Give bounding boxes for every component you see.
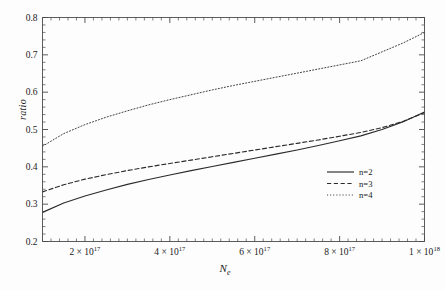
y-tick-label: 0.5: [26, 125, 38, 135]
x-tick-label: 1 × 1018: [409, 245, 441, 256]
plot-frame: [43, 18, 425, 242]
x-tick-label: 8 × 1017: [324, 245, 356, 256]
y-axis-ticks: 0.20.30.40.50.60.70.8: [26, 13, 425, 247]
y-tick-label: 0.6: [26, 87, 38, 97]
x-axis-ticks: 2 × 10174 × 10176 × 10178 × 10171 × 1018: [43, 18, 441, 257]
x-tick-label: 4 × 1017: [154, 245, 186, 256]
legend: n=2n=3n=4: [327, 167, 373, 200]
legend-label-n-2[interactable]: n=2: [359, 167, 372, 177]
y-tick-label: 0.3: [26, 199, 38, 209]
x-tick-label: 6 × 1017: [239, 245, 271, 256]
x-tick-label: 2 × 1017: [69, 245, 101, 256]
legend-label-n-4[interactable]: n=4: [359, 190, 373, 200]
legend-label-n-3[interactable]: n=3: [359, 179, 372, 189]
chart-plot-area: 0.20.30.40.50.60.70.8 2 × 10174 × 10176 …: [0, 0, 445, 290]
curve-n-4: [43, 32, 425, 146]
y-tick-label: 0.2: [26, 237, 38, 247]
figure-container: ratio Ne 0.20.30.40.50.60.70.8 2 × 10174…: [0, 0, 445, 290]
y-tick-label: 0.7: [26, 50, 38, 60]
y-tick-label: 0.4: [26, 162, 38, 172]
axis-frame-path: [43, 18, 425, 242]
y-tick-label: 0.8: [26, 13, 38, 23]
